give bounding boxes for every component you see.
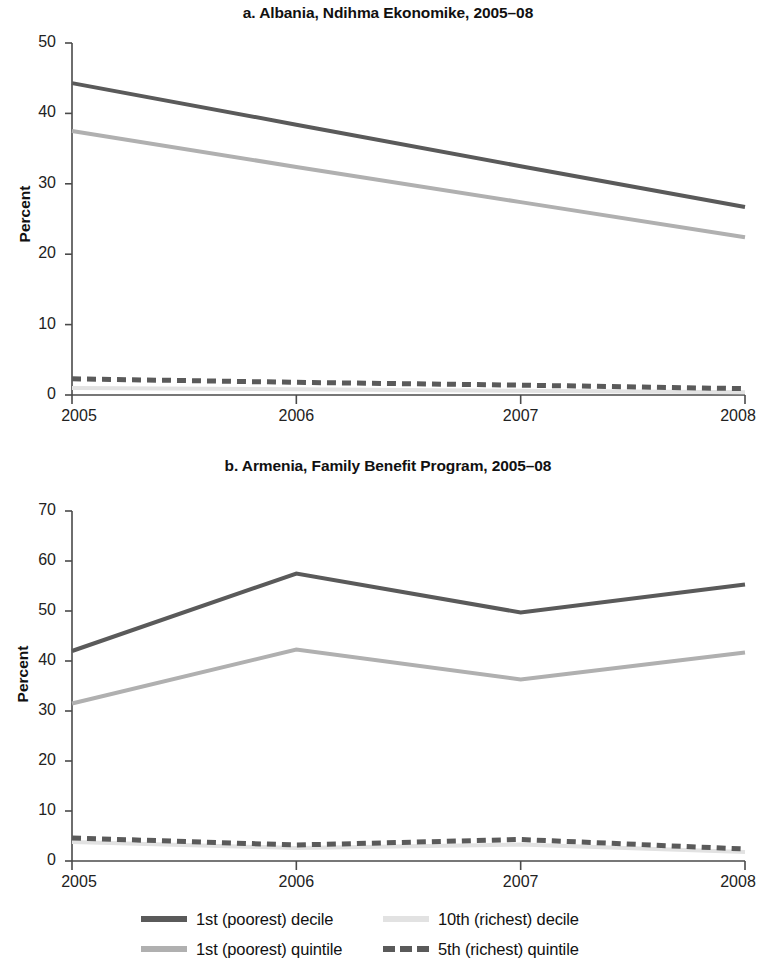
legend-swatch-icon (383, 916, 429, 922)
y-tick-label: 10 (22, 801, 56, 819)
x-tick-label: 2006 (261, 407, 331, 425)
series-line (72, 650, 745, 704)
x-tick-label: 2008 (703, 873, 773, 891)
x-tick-label: 2007 (486, 873, 556, 891)
y-tick-label: 40 (22, 103, 56, 121)
legend-item[interactable]: 1st (poorest) quintile (141, 940, 383, 959)
x-tick-label: 2005 (44, 873, 114, 891)
legend-row: 1st (poorest) decile10th (richest) decil… (0, 904, 776, 934)
legend-item[interactable]: 1st (poorest) decile (141, 910, 383, 929)
legend-label: 1st (poorest) decile (196, 910, 333, 929)
chart-panel-b: b. Armenia, Family Benefit Program, 2005… (0, 455, 776, 895)
y-tick-label: 20 (22, 751, 56, 769)
legend-label: 10th (richest) decile (438, 910, 579, 929)
legend-swatch-icon (141, 916, 187, 922)
panel-b-plot (0, 455, 776, 895)
y-tick-label: 20 (22, 244, 56, 262)
y-tick-label: 70 (22, 501, 56, 519)
chart-panel-a: a. Albania, Ndihma Ekonomike, 2005–08 Pe… (0, 0, 776, 440)
legend-swatch-icon (383, 946, 429, 952)
legend-item[interactable]: 10th (richest) decile (383, 910, 635, 929)
legend-row: 1st (poorest) quintile5th (richest) quin… (0, 934, 776, 964)
y-tick-label: 0 (22, 851, 56, 869)
figure-container: a. Albania, Ndihma Ekonomike, 2005–08 Pe… (0, 0, 776, 968)
x-tick-label: 2008 (703, 407, 773, 425)
x-tick-label: 2005 (44, 407, 114, 425)
y-tick-label: 0 (22, 385, 56, 403)
y-tick-label: 50 (22, 33, 56, 51)
x-tick-label: 2007 (486, 407, 556, 425)
x-tick-label: 2006 (261, 873, 331, 891)
y-tick-label: 30 (22, 701, 56, 719)
y-tick-label: 50 (22, 601, 56, 619)
chart-legend: 1st (poorest) decile10th (richest) decil… (0, 900, 776, 968)
legend-item[interactable]: 5th (richest) quintile (383, 940, 635, 959)
y-tick-label: 10 (22, 315, 56, 333)
legend-label: 5th (richest) quintile (438, 940, 579, 959)
y-tick-label: 30 (22, 174, 56, 192)
y-tick-label: 60 (22, 551, 56, 569)
legend-swatch-icon (141, 946, 187, 952)
series-line (72, 83, 745, 207)
panel-a-plot (0, 0, 776, 440)
series-line (72, 574, 745, 652)
legend-label: 1st (poorest) quintile (196, 940, 342, 959)
y-tick-label: 40 (22, 651, 56, 669)
